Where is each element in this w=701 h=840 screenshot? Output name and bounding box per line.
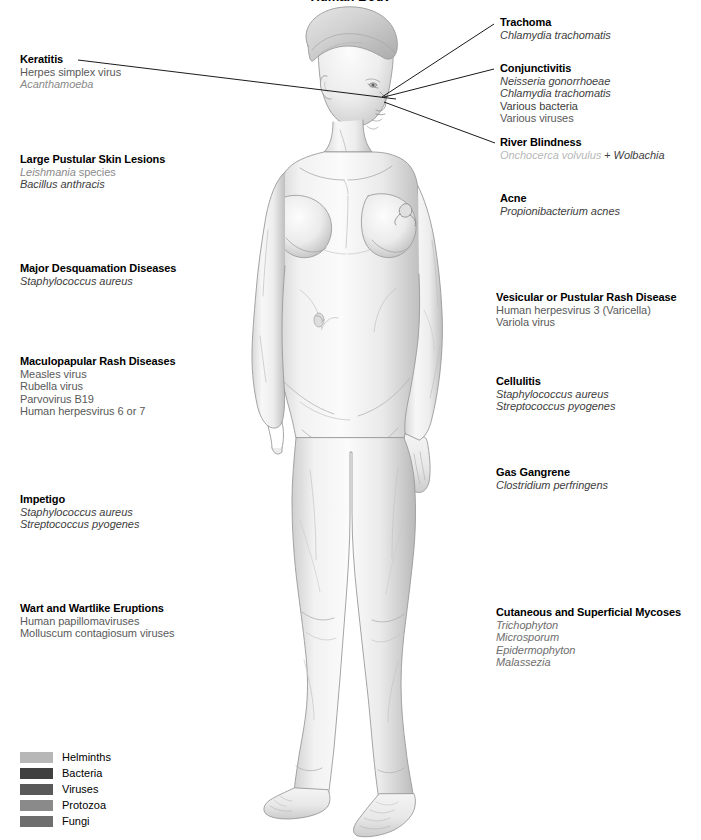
callout-heading: Major Desquamation Diseases (20, 262, 176, 275)
legend-label: Viruses (62, 783, 98, 795)
callout-keratitis[interactable]: Keratitis Herpes simplex virus Acanthamo… (20, 53, 121, 91)
legend-label: Fungi (62, 815, 90, 827)
callout-line: Streptococcus pyogenes (496, 400, 615, 413)
callout-line: Malassezia (496, 656, 681, 669)
legend-item-viruses: Viruses (20, 781, 111, 797)
callout-line: Parvovirus B19 (20, 393, 176, 406)
callout-trachoma[interactable]: Trachoma Chlamydia trachomatis (500, 16, 611, 41)
callout-cellulitis[interactable]: Cellulitis Staphylococcus aureus Strepto… (496, 375, 615, 413)
callout-line: Various bacteria (500, 100, 611, 113)
callout-line: Staphylococcus aureus (496, 388, 615, 401)
callout-heading: Gas Gangrene (496, 466, 608, 479)
callout-heading: Cutaneous and Superficial Mycoses (496, 606, 681, 619)
leader-conjunctivitis (384, 69, 494, 97)
callout-line: Propionibacterium acnes (500, 205, 620, 218)
callout-heading: Large Pustular Skin Lesions (20, 153, 165, 166)
callout-river-blindness[interactable]: River Blindness Onchocerca volvulus + Wo… (500, 136, 664, 161)
callout-line: Trichophyton (496, 619, 681, 632)
callout-line: Acanthamoeba (20, 78, 121, 91)
leader-keratitis (78, 60, 396, 99)
leader-lines (0, 0, 701, 840)
callout-heading: Acne (500, 192, 620, 205)
callout-line: Staphylococcus aureus (20, 506, 139, 519)
callout-gas-gangrene[interactable]: Gas Gangrene Clostridium perfringens (496, 466, 608, 491)
callout-conjunctivitis[interactable]: Conjunctivitis Neisseria gonorrhoeae Chl… (500, 62, 611, 125)
legend-swatch-fungi (20, 816, 53, 827)
legend-swatch-viruses (20, 784, 53, 795)
legend-label: Bacteria (62, 767, 102, 779)
callout-acne[interactable]: Acne Propionibacterium acnes (500, 192, 620, 217)
callout-heading: Maculopapular Rash Diseases (20, 355, 176, 368)
callout-heading: River Blindness (500, 136, 664, 149)
callout-line: Onchocerca volvulus + Wolbachia (500, 149, 664, 162)
callout-line: Human papillomaviruses (20, 615, 174, 628)
legend-swatch-protozoa (20, 800, 53, 811)
leader-trachoma (382, 24, 494, 97)
callout-line: Chlamydia trachomatis (500, 29, 611, 42)
legend-item-fungi: Fungi (20, 813, 111, 829)
callout-line: Epidermophyton (496, 644, 681, 657)
callout-line: Human herpesvirus 3 (Varicella) (496, 304, 677, 317)
legend-item-helminths: Helminths (20, 749, 111, 765)
leader-river-blindness (384, 102, 495, 143)
legend-label: Protozoa (62, 799, 106, 811)
legend: Helminths Bacteria Viruses Protozoa Fung… (20, 749, 111, 829)
callout-heading: Trachoma (500, 16, 611, 29)
callout-heading: Wart and Wartlike Eruptions (20, 602, 174, 615)
callout-line: Molluscum contagiosum viruses (20, 627, 174, 640)
callout-line: Chlamydia trachomatis (500, 87, 611, 100)
callout-heading: Conjunctivitis (500, 62, 611, 75)
callout-line: Clostridium perfringens (496, 479, 608, 492)
callout-line: Variola virus (496, 316, 677, 329)
callout-line: Staphylococcus aureus (20, 275, 176, 288)
callout-maculopapular-rash-diseases[interactable]: Maculopapular Rash Diseases Measles viru… (20, 355, 176, 418)
callout-heading: Vesicular or Pustular Rash Disease (496, 291, 677, 304)
callout-vesicular-or-pustular-rash-disease[interactable]: Vesicular or Pustular Rash Disease Human… (496, 291, 677, 329)
callout-cutaneous-and-superficial-mycoses[interactable]: Cutaneous and Superficial Mycoses Tricho… (496, 606, 681, 669)
callout-impetigo[interactable]: Impetigo Staphylococcus aureus Streptoco… (20, 493, 139, 531)
legend-swatch-helminths (20, 752, 53, 763)
callout-heading: Cellulitis (496, 375, 615, 388)
callout-line: Leishmania species (20, 166, 165, 179)
callout-line: Various viruses (500, 112, 611, 125)
legend-swatch-bacteria (20, 768, 53, 779)
callout-heading: Keratitis (20, 53, 121, 66)
callout-line: Bacillus anthracis (20, 178, 165, 191)
legend-item-bacteria: Bacteria (20, 765, 111, 781)
callout-large-pustular-skin-lesions[interactable]: Large Pustular Skin Lesions Leishmania s… (20, 153, 165, 191)
callout-line: Measles virus (20, 368, 176, 381)
callout-line: Human herpesvirus 6 or 7 (20, 405, 176, 418)
callout-major-desquamation-diseases[interactable]: Major Desquamation Diseases Staphylococc… (20, 262, 176, 287)
callout-heading: Impetigo (20, 493, 139, 506)
callout-wart-and-wartlike-eruptions[interactable]: Wart and Wartlike Eruptions Human papill… (20, 602, 174, 640)
callout-line: Rubella virus (20, 380, 176, 393)
callout-line: Herpes simplex virus (20, 66, 121, 79)
callout-line: Neisseria gonorrhoeae (500, 75, 611, 88)
legend-label: Helminths (62, 751, 111, 763)
legend-item-protozoa: Protozoa (20, 797, 111, 813)
callout-line: Microsporum (496, 631, 681, 644)
callout-line: Streptococcus pyogenes (20, 518, 139, 531)
